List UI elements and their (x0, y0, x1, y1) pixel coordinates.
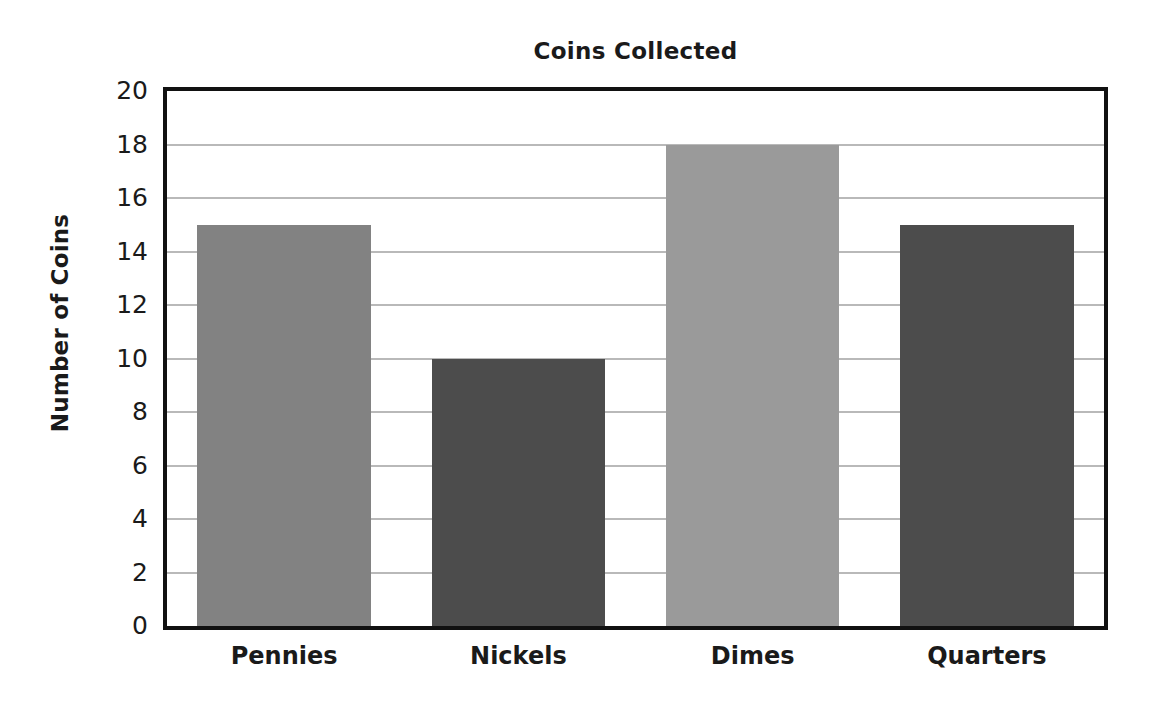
y-axis-tick-label: 8 (88, 399, 148, 424)
bar-dimes (666, 145, 839, 627)
y-axis-tick-label: 0 (88, 613, 148, 638)
plot-area (163, 87, 1108, 630)
bar-chart: Coins Collected Number of Coins 20181614… (0, 0, 1163, 725)
y-axis-tick-label: 10 (88, 346, 148, 371)
y-axis-tick-label: 16 (88, 185, 148, 210)
y-axis-tick-label: 12 (88, 292, 148, 317)
y-axis-tick-label: 2 (88, 560, 148, 585)
y-axis-tick-label: 6 (88, 453, 148, 478)
y-axis-tick-label: 20 (88, 78, 148, 103)
x-axis-tick-label: Pennies (167, 644, 401, 668)
x-axis-tick-label: Nickels (401, 644, 635, 668)
x-axis-tick-label: Quarters (870, 644, 1104, 668)
bar-nickels (432, 359, 605, 627)
chart-title: Coins Collected (163, 40, 1108, 63)
y-axis-title: Number of Coins (47, 193, 73, 453)
bar-pennies (197, 225, 370, 626)
y-axis-tick-label: 18 (88, 132, 148, 157)
gridline (167, 144, 1104, 146)
y-axis-tick-label: 14 (88, 239, 148, 264)
gridline (167, 197, 1104, 199)
bar-quarters (900, 225, 1073, 626)
x-axis-tick-label: Dimes (636, 644, 870, 668)
y-axis-tick-label: 4 (88, 506, 148, 531)
